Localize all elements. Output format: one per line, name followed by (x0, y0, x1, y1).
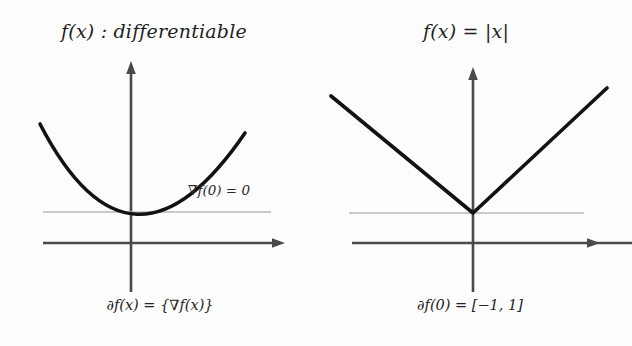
parabola-curve (40, 124, 245, 214)
x-axis-arrowhead-icon (272, 238, 285, 248)
panel-absolute-value: f(x) = |x| 0 ∈ ∂f(0) ∂f(0) = [−1, 1] (316, 0, 632, 346)
y-axis-arrowhead-icon (468, 67, 478, 80)
caption-subdifferential-singleton: ∂f(x) = {∇f(x)} (2, 297, 318, 313)
annotation-gradient-zero: ∇f(0) = 0 (188, 182, 250, 198)
y-axis-arrowhead-icon (126, 61, 136, 74)
plot-absolute-value (316, 0, 632, 346)
panel-differentiable: f(x) : differentiable ∇f(0) = 0 ∂f(x) = … (0, 0, 316, 346)
absolute-value-curve (331, 88, 607, 213)
plot-differentiable (0, 0, 316, 346)
caption-subdifferential-interval: ∂f(0) = [−1, 1] (312, 297, 628, 313)
figure-subgradient-comparison: f(x) : differentiable ∇f(0) = 0 ∂f(x) = … (0, 0, 632, 346)
x-axis-arrowhead-icon (587, 238, 600, 248)
